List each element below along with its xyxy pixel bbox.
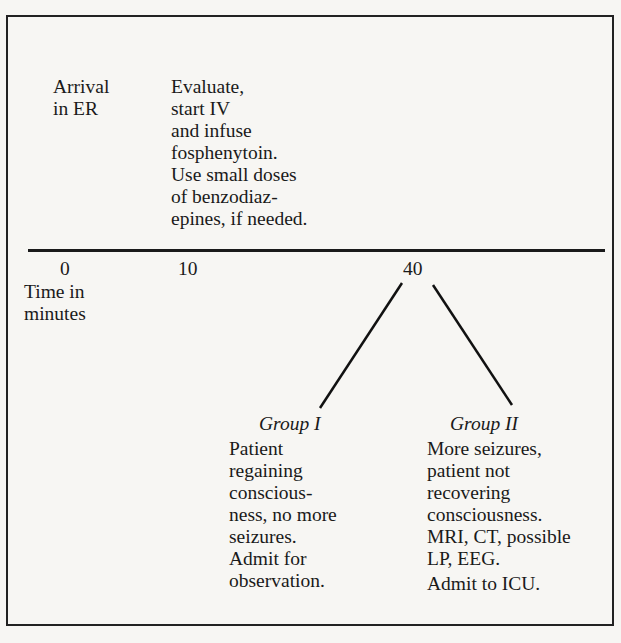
group-1-text: Patient regaining conscious- ness, no mo… (229, 438, 337, 592)
group-2-text: More seizures, patient not recovering co… (427, 438, 571, 570)
group-2-admit: Admit to ICU. (427, 573, 540, 595)
group-1-title: Group I (259, 413, 321, 435)
group-2-title: Group II (450, 413, 518, 435)
